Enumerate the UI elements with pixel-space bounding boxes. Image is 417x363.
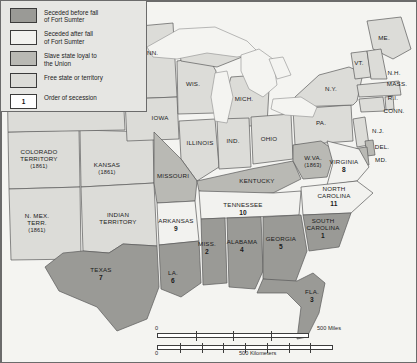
scale-bar: 0 500 Miles 0 500 Kilometers <box>149 325 359 355</box>
legend-rows: Seceded before fallof Fort SumterSeceded… <box>10 8 146 88</box>
legend-label-1: Seceded after fallof Fort Sumter <box>44 30 93 46</box>
map-legend: Seceded before fallof Fort SumterSeceded… <box>1 1 147 112</box>
legend-swatch-2 <box>10 51 37 66</box>
legend-label-3: Free state or territory <box>44 73 103 81</box>
legend-label-order-of-secession: Order of secession <box>44 94 97 102</box>
legend-swatch-3 <box>10 73 37 88</box>
scale-miles-label: 500 Miles <box>317 325 341 331</box>
legend-row-1: Seceded after fallof Fort Sumter <box>10 30 146 46</box>
legend-swatch-1 <box>10 30 37 45</box>
legend-swatch-order-of-secession: 1 <box>10 94 37 109</box>
scale-km-zero: 0 <box>155 350 158 356</box>
legend-order-number: 1 <box>22 98 26 105</box>
legend-row-3: Free state or territory <box>10 73 146 88</box>
secession-map: MINN.WIS.MICH.IOWAILLINOISIND.OHIOPA.N.Y… <box>0 0 417 363</box>
legend-label-0: Seceded before fallof Fort Sumter <box>44 8 98 24</box>
legend-label-2: Slave state loyal tothe Union <box>44 51 97 67</box>
scale-miles-zero: 0 <box>155 325 158 331</box>
scale-km-label: 500 Kilometers <box>239 350 276 356</box>
scale-bar-miles <box>157 333 309 338</box>
legend-row-order-of-secession: 1 Order of secession <box>10 94 146 109</box>
legend-swatch-0 <box>10 8 37 23</box>
legend-row-0: Seceded before fallof Fort Sumter <box>10 8 146 24</box>
legend-row-2: Slave state loyal tothe Union <box>10 51 146 67</box>
